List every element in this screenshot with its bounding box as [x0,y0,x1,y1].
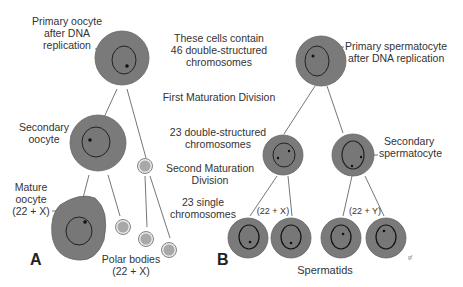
label-23-double-structured: 23 double-structured chromosomes [163,126,273,150]
polar-body [138,159,153,174]
artist-signature: gf [405,251,415,263]
polar-body [139,232,154,247]
polar-body [162,243,177,258]
label-23-single: 23 single chromosomes [165,196,241,220]
spermatid-cell [321,218,361,258]
secondary-spermatocyte-cell [332,134,374,176]
primary-spermatocyte-cell [296,36,346,86]
panel-letter-a: A [30,251,42,269]
spermatid-cell [271,218,311,258]
label-secondary-oocyte: Secondary oocyte [14,121,74,145]
label-second-maturation-division: Second Maturation Division [160,162,260,186]
polar-body [116,220,131,235]
label-polar-bodies: Polar bodies (22 + X) [99,253,163,277]
label-secondary-spermatocyte: Secondary spermatocyte [379,135,449,159]
label-mature-oocyte: Mature oocyte (22 + X) [7,181,55,217]
label-spermatids: Spermatids [290,264,360,276]
label-primary-spermatocyte: Primary spermatocyte after DNA replicati… [345,40,457,64]
label-primary-oocyte: Primary oocyte after DNA replication [27,15,107,51]
spermatid-cell [228,218,268,258]
label-22-x: (22 + X) [256,205,290,217]
label-22-y: (22 + Y) [348,205,382,217]
panel-letter-b: B [217,251,229,269]
label-cells-contain: These cells contain 46 double-structured… [165,32,273,68]
spermatid-cell [366,218,406,258]
secondary-oocyte-cell [70,115,126,171]
mature-oocyte-cell [52,196,106,260]
label-first-maturation-division: First Maturation Division [160,91,278,103]
